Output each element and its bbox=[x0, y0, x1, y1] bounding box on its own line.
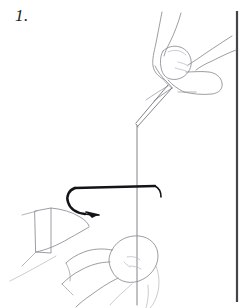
hand-holding-line-lower-center bbox=[62, 236, 159, 308]
fishing-knot-illustration bbox=[0, 0, 243, 308]
hand-pinching-tippet-upper-right bbox=[146, 12, 236, 101]
illustration-page: 1. bbox=[0, 0, 243, 308]
fishing-line-tippet bbox=[136, 85, 172, 305]
fish-hook bbox=[67, 186, 161, 218]
thumb-lower-left bbox=[10, 208, 89, 281]
